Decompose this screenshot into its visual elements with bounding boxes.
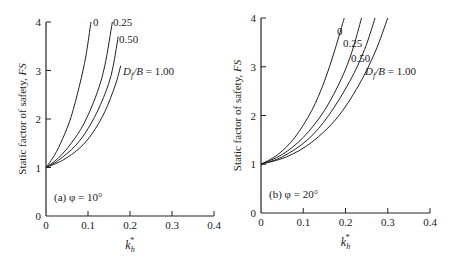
curve-df-b-0.50 [46,37,118,168]
x-tick-label: 0.4 [207,219,221,231]
x-axis-label: kh* [341,233,350,251]
curve-label: 0.25 [113,16,133,28]
x-tick-label: 0.1 [296,216,310,228]
y-tick-label: 1 [251,158,257,170]
y-tick-label: 0 [251,207,257,219]
y-tick-label: 3 [36,65,42,77]
panel-label: (a) φ = 10° [54,191,102,204]
x-tick-label: 0.2 [339,216,353,228]
y-tick-label: 4 [251,12,257,24]
chart-panel-b: 00.10.20.30.401234kh*Static factor of sa… [231,12,437,251]
y-tick-label: 4 [36,16,42,28]
x-tick-label: 0 [258,216,264,228]
curve-label: Df/B = 1.00 [122,65,174,80]
x-tick-label: 0 [43,219,49,231]
x-tick-label: 0.1 [81,219,95,231]
y-tick-label: 1 [36,162,42,174]
curve-label: 0 [337,25,343,37]
curve-label: 0.50 [351,52,371,64]
chart-figure: 00.10.20.30.401234kh*Static factor of sa… [0,0,459,261]
y-tick-label: 0 [36,210,42,222]
curve-df-b-0.25 [46,22,112,168]
y-axis-label: Static factor of safety, FS [231,59,243,171]
curve-label: 0 [93,16,99,28]
x-axis-label: kh* [125,236,134,254]
curve-label: 0.25 [343,37,363,49]
y-tick-label: 2 [251,110,257,122]
chart-panel-a: 00.10.20.30.401234kh*Static factor of sa… [16,16,221,254]
x-tick-label: 0.3 [165,219,179,231]
panel-label: (b) φ = 20° [269,188,318,201]
x-tick-label: 0.4 [423,216,437,228]
x-tick-label: 0.2 [123,219,137,231]
y-axis-label: Static factor of safety, FS [16,63,28,175]
curve-label: 0.50 [119,33,139,45]
curve-df-b-0 [261,18,344,164]
curve-df-b-0 [46,22,91,168]
y-tick-label: 3 [251,61,257,73]
x-tick-label: 0.3 [381,216,395,228]
curve-df-b-1.00 [261,18,388,164]
y-tick-label: 2 [36,113,42,125]
curve-label: Df/B = 1.00 [364,65,416,80]
